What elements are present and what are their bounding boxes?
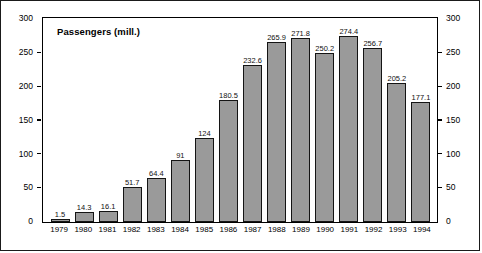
bar-value-label: 124 (198, 130, 211, 138)
bar-value-label: 51.7 (125, 179, 140, 187)
y-axis-tick-label: 100 (446, 150, 460, 159)
bar[interactable]: 14.3 (75, 212, 94, 222)
bar-slot: 256.7 (361, 18, 385, 222)
y-axis-tick-label: 150 (446, 116, 460, 125)
bar-slot: 271.8 (289, 18, 313, 222)
bar-value-label: 177.1 (412, 94, 431, 102)
bar-value-label: 205.2 (388, 75, 407, 83)
bar-value-label: 16.1 (101, 203, 116, 211)
y-axis-tick-mark (438, 52, 442, 53)
y-axis-tick-label: 0 (446, 217, 451, 226)
x-axis-tick-label: 1983 (144, 226, 168, 234)
y-axis-tick-label: 250 (19, 48, 33, 57)
bar[interactable]: 124 (195, 138, 214, 222)
x-axis-tick-label: 1990 (313, 226, 337, 234)
y-axis-tick-mark (438, 187, 442, 188)
bar-value-label: 256.7 (363, 40, 382, 48)
x-axis-tick-label: 1984 (168, 226, 192, 234)
bar-value-label: 271.8 (291, 30, 310, 38)
y-axis-tick-label: 250 (446, 48, 460, 57)
x-axis-tick-label: 1986 (216, 226, 240, 234)
y-axis-tick-label: 150 (19, 116, 33, 125)
y-axis-tick-mark (37, 153, 41, 154)
y-axis-tick-mark (37, 187, 41, 188)
bar-value-label: 232.6 (243, 57, 262, 65)
y-axis-tick-mark (37, 119, 41, 120)
y-axis-tick-mark (438, 153, 442, 154)
y-axis-tick-label: 200 (19, 82, 33, 91)
y-axis-tick-label: 0 (28, 217, 33, 226)
x-axis-tick-label: 1979 (47, 226, 71, 234)
y-axis-tick-mark (438, 86, 442, 87)
chart-figure: 300250200150100500 Passengers (mill.) 1.… (0, 0, 480, 251)
bar[interactable]: 205.2 (387, 83, 406, 222)
x-axis-tick-label: 1988 (265, 226, 289, 234)
x-axis-tick-label: 1989 (289, 226, 313, 234)
bar-value-label: 180.5 (219, 92, 238, 100)
plot-area: Passengers (mill.) 1.514.316.151.764.491… (42, 17, 438, 223)
bar-value-label: 1.5 (55, 211, 65, 219)
bar[interactable]: 250.2 (315, 53, 334, 222)
bar-slot: 91 (168, 18, 192, 222)
y-axis-tick-mark (37, 86, 41, 87)
bar-slot: 177.1 (409, 18, 433, 222)
bar[interactable]: 16.1 (99, 211, 118, 222)
x-axis-tick-label: 1982 (120, 226, 144, 234)
bar-slot: 64.4 (144, 18, 168, 222)
bar-slot: 14.3 (72, 18, 96, 222)
y-axis-tick-label: 50 (24, 183, 33, 192)
y-axis-tick-label: 50 (446, 183, 455, 192)
bar-slot: 274.4 (337, 18, 361, 222)
bar-slot: 265.9 (265, 18, 289, 222)
bar-slot: 51.7 (120, 18, 144, 222)
x-axis-tick-label: 1991 (337, 226, 361, 234)
bar[interactable]: 274.4 (339, 36, 358, 222)
x-axis-tick-label: 1981 (95, 226, 119, 234)
bar[interactable]: 1.5 (51, 219, 70, 222)
bar-value-label: 274.4 (339, 28, 358, 36)
bar-slot: 232.6 (241, 18, 265, 222)
bar[interactable]: 180.5 (219, 100, 238, 222)
bar-value-label: 250.2 (315, 45, 334, 53)
x-axis-labels: 1979198019811982198319841985198619871988… (42, 226, 438, 234)
bar[interactable]: 64.4 (147, 178, 166, 222)
x-axis-tick-label: 1987 (241, 226, 265, 234)
bar-value-label: 64.4 (149, 170, 164, 178)
x-axis-tick-label: 1993 (386, 226, 410, 234)
bar[interactable]: 265.9 (267, 42, 286, 222)
y-axis-tick-mark (37, 52, 41, 53)
bar-slot: 250.2 (313, 18, 337, 222)
bar-slot: 205.2 (385, 18, 409, 222)
bar[interactable]: 51.7 (123, 187, 142, 222)
y-axis-tick-label: 300 (19, 14, 33, 23)
x-axis-tick-label: 1992 (361, 226, 385, 234)
x-axis-tick-label: 1980 (71, 226, 95, 234)
bar-value-label: 91 (176, 152, 184, 160)
bar-value-label: 14.3 (77, 204, 92, 212)
bar[interactable]: 91 (171, 160, 190, 222)
y-axis-left: 300250200150100500 (1, 17, 41, 223)
y-axis-tick-label: 200 (446, 82, 460, 91)
y-axis-tick-mark (438, 119, 442, 120)
bar[interactable]: 271.8 (291, 38, 310, 222)
bar[interactable]: 232.6 (243, 65, 262, 222)
bar-slot: 1.5 (48, 18, 72, 222)
y-axis-tick-label: 100 (19, 150, 33, 159)
x-axis-tick-label: 1994 (410, 226, 434, 234)
y-axis-tick-label: 300 (446, 14, 460, 23)
bar[interactable]: 256.7 (363, 48, 382, 222)
bar[interactable]: 177.1 (411, 102, 430, 222)
y-axis-right: 300250200150100500 (438, 17, 480, 223)
bar-slot: 180.5 (216, 18, 240, 222)
bar-slot: 16.1 (96, 18, 120, 222)
bar-slot: 124 (192, 18, 216, 222)
bar-series: 1.514.316.151.764.491124180.5232.6265.92… (43, 18, 437, 222)
bar-value-label: 265.9 (267, 34, 286, 42)
x-axis-tick-label: 1985 (192, 226, 216, 234)
